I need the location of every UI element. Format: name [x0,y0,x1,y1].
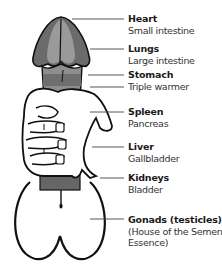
hand [23,89,113,178]
paired-organ: (House of the Semen [128,226,222,238]
label-gonads: Gonads (testicles) (House of the Semen E… [128,214,222,249]
paired-organ: Bladder [128,184,169,196]
organ-name: Heart [128,13,194,25]
paired-organ: Triple warmer [128,81,189,93]
label-stomach: Stomach Triple warmer [128,69,189,92]
label-heart: Heart Small intestine [128,13,194,36]
paired-organ-continued: Essence) [128,237,222,249]
scrotum-outline [15,182,105,259]
glans-zone [33,17,90,67]
label-kidneys: Kidneys Bladder [128,172,169,195]
label-lungs: Lungs Large intestine [128,43,195,66]
organ-name: Gonads (testicles) [128,214,222,226]
paired-organ: Gallbladder [128,153,179,165]
paired-organ: Large intestine [128,55,195,67]
organ-name: Kidneys [128,172,169,184]
organ-name: Liver [128,141,179,153]
paired-organ: Pancreas [128,118,168,130]
label-spleen: Spleen Pancreas [128,106,168,129]
label-liver: Liver Gallbladder [128,141,179,164]
organ-name: Lungs [128,43,195,55]
organ-name: Spleen [128,106,168,118]
organ-name: Stomach [128,69,189,81]
paired-organ: Small intestine [128,25,194,37]
